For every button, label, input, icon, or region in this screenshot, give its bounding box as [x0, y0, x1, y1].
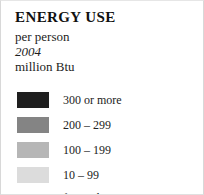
legend-label-10-99: 10 – 99: [63, 168, 99, 182]
legend-label-100-199: 100 – 199: [63, 143, 111, 157]
legend-row: 10 – 99: [15, 162, 203, 187]
legend-swatch-300-or-more: [17, 92, 49, 108]
legend-scale: 300 or more 200 – 299 100 – 199 10 – 99 …: [15, 87, 203, 195]
map-legend-card: ENERGY USE per person 2004 million Btu 3…: [0, 0, 204, 195]
legend-label-300-or-more: 300 or more: [63, 93, 122, 107]
legend-subtitle-year: 2004: [15, 44, 203, 59]
legend-row: 200 – 299: [15, 112, 203, 137]
legend-row-footnote: fewer than 10: [15, 187, 203, 195]
legend-title: ENERGY USE: [15, 9, 203, 26]
legend-label-fewer-than-10: fewer than 10: [63, 191, 129, 195]
legend-row: 100 – 199: [15, 137, 203, 162]
legend-swatch-10-99: [17, 167, 49, 183]
legend-label-200-299: 200 – 299: [63, 118, 111, 132]
legend-swatch-200-299: [17, 117, 49, 133]
legend-content: ENERGY USE per person 2004 million Btu 3…: [1, 1, 203, 195]
legend-row: 300 or more: [15, 87, 203, 112]
legend-subtitle-units: million Btu: [15, 59, 203, 74]
legend-swatch-100-199: [17, 142, 49, 158]
legend-subtitle-block: per person 2004 million Btu: [15, 29, 203, 74]
legend-subtitle-per-person: per person: [15, 29, 203, 44]
